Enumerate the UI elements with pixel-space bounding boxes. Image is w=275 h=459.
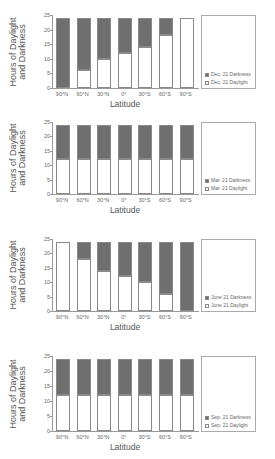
bar-daylight — [97, 59, 111, 88]
plot-area: 0510152025 — [52, 15, 199, 89]
bar-darkness — [77, 18, 91, 71]
bar-stack — [56, 122, 70, 194]
darkness-swatch-icon — [205, 296, 209, 300]
bar-daylight — [97, 159, 111, 194]
bar-stack — [159, 122, 173, 194]
y-tick-mark — [50, 371, 53, 372]
bar-stack — [56, 356, 70, 431]
bar-stack — [118, 15, 132, 88]
bar-daylight — [159, 159, 173, 194]
bar-daylight — [159, 294, 173, 311]
bar-stack — [77, 239, 91, 311]
bar-darkness — [56, 125, 70, 160]
legend: June 21 DarknessJune 21 Daylight — [201, 239, 256, 312]
y-tick-label: 10 — [39, 56, 50, 62]
bar-daylight — [77, 70, 91, 88]
bar-darkness — [97, 18, 111, 59]
legend: Sep. 21 DarknessSep. 21 Daylight — [201, 356, 256, 432]
bar-darkness — [77, 359, 91, 395]
y-tick-mark — [50, 356, 53, 357]
bar-daylight — [180, 18, 194, 88]
y-tick-mark — [50, 15, 53, 16]
bar-darkness — [118, 242, 132, 277]
bar-darkness — [159, 125, 173, 160]
bar-darkness — [77, 242, 91, 259]
bar-darkness — [77, 125, 91, 160]
legend-label: Dec. 21 Darkness — [211, 71, 251, 77]
x-axis-title: Latitude — [52, 205, 198, 215]
bar-daylight — [97, 271, 111, 311]
bar-darkness — [180, 359, 194, 395]
legend: Dec. 21 DarknessDec. 21 Daylight — [201, 15, 256, 89]
y-tick-label: 0 — [39, 191, 50, 197]
y-axis-title-line2: and Darkness — [18, 12, 27, 92]
bar-stack — [159, 239, 173, 311]
y-tick-mark — [50, 59, 53, 60]
y-tick-label: 5 — [39, 177, 50, 183]
bar-stack — [180, 239, 194, 311]
legend-item-daylight: Sep. 21 Daylight — [205, 422, 248, 428]
plot-area: 0510152025 — [52, 239, 199, 312]
bar-stack — [77, 15, 91, 88]
daylight-swatch-icon — [205, 187, 209, 191]
y-axis-title-line2: and Darkness — [18, 354, 27, 434]
bar-darkness — [97, 242, 111, 271]
bar-stack — [97, 122, 111, 194]
daylight-swatch-icon — [205, 304, 209, 308]
bar-daylight — [118, 159, 132, 194]
x-tick-label: 90°S — [174, 197, 198, 203]
y-tick-mark — [50, 386, 53, 387]
legend-item-darkness: Sep. 21 Darkness — [205, 414, 251, 420]
bar-stack — [97, 239, 111, 311]
legend-label: June 21 Daylight — [211, 302, 248, 308]
y-axis-title-line2: and Darkness — [18, 118, 27, 198]
bar-stack — [138, 356, 152, 431]
legend-item-darkness: June 21 Darkness — [205, 294, 251, 300]
y-tick-label: 15 — [39, 41, 50, 47]
legend-item-darkness: Mar. 21 Darkness — [205, 177, 250, 183]
bar-darkness — [138, 359, 152, 395]
plot-area: 0510152025 — [52, 122, 199, 195]
y-tick-label: 5 — [39, 70, 50, 76]
y-tick-label: 10 — [39, 162, 50, 168]
x-axis-title: Latitude — [52, 99, 198, 109]
y-tick-mark — [50, 88, 53, 89]
legend-item-daylight: June 21 Daylight — [205, 302, 248, 308]
y-tick-mark — [50, 311, 53, 312]
darkness-swatch-icon — [205, 416, 209, 420]
y-tick-label: 25 — [39, 119, 50, 125]
bar-daylight — [138, 395, 152, 431]
legend-label: June 21 Darkness — [211, 294, 251, 300]
bar-stack — [97, 15, 111, 88]
bar-daylight — [77, 159, 91, 194]
legend-label: Mar. 21 Daylight — [211, 185, 247, 191]
x-tick-label: 90°S — [174, 91, 198, 97]
bar-daylight — [118, 395, 132, 431]
bar-darkness — [159, 242, 173, 294]
y-tick-label: 10 — [39, 279, 50, 285]
y-tick-label: 20 — [39, 250, 50, 256]
bar-darkness — [138, 18, 152, 47]
bar-stack — [180, 122, 194, 194]
legend-item-darkness: Dec. 21 Darkness — [205, 71, 251, 77]
y-axis-title: Hours of Daylightand Darkness — [9, 12, 27, 92]
y-tick-mark — [50, 165, 53, 166]
y-tick-label: 20 — [39, 27, 50, 33]
bar-darkness — [138, 242, 152, 282]
y-tick-label: 25 — [39, 236, 50, 242]
bar-stack — [159, 15, 173, 88]
daylight-swatch-icon — [205, 424, 209, 428]
bar-stack — [138, 239, 152, 311]
darkness-swatch-icon — [205, 179, 209, 183]
y-tick-mark — [50, 239, 53, 240]
y-tick-label: 15 — [39, 148, 50, 154]
y-tick-label: 5 — [39, 294, 50, 300]
bar-daylight — [180, 395, 194, 431]
bar-stack — [138, 122, 152, 194]
x-tick-label: 90°S — [174, 314, 198, 320]
bar-stack — [97, 356, 111, 431]
y-tick-mark — [50, 431, 53, 432]
y-tick-mark — [50, 151, 53, 152]
bar-daylight — [138, 282, 152, 311]
y-axis-title: Hours of Daylightand Darkness — [9, 354, 27, 434]
